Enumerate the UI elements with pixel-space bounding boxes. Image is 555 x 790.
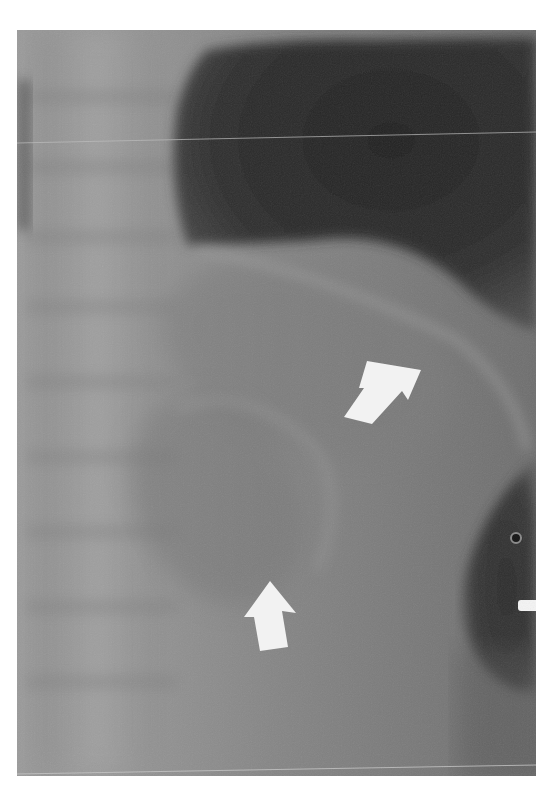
xray-image xyxy=(17,30,536,776)
xray-film xyxy=(17,30,536,776)
